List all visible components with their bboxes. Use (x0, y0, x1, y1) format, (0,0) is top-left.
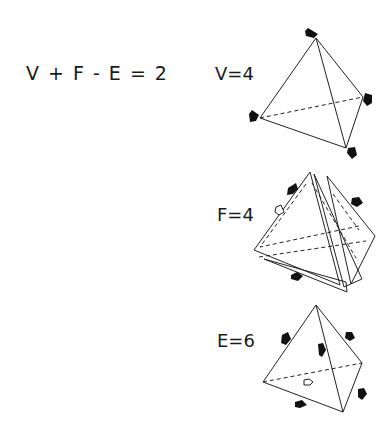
faces-label: F=4 (217, 204, 254, 225)
vertices-panel: V=4 (215, 28, 372, 159)
tetrahedron-edges (263, 305, 362, 412)
vertex-arrow-icon (363, 93, 372, 106)
euler-formula-diagram: V + F - E = 2 V=4 F=4 (0, 0, 391, 432)
faces-panel: F=4 (217, 172, 375, 292)
edge-arrow-icon (295, 400, 307, 408)
exploded-tetrahedron-faces (254, 172, 375, 292)
vertices-label: V=4 (215, 63, 254, 84)
face-arrow-icon (287, 183, 298, 195)
edge-arrow-open-icon (304, 379, 313, 385)
edge-arrow-icon (358, 388, 367, 400)
euler-formula: V + F - E = 2 (26, 62, 168, 84)
edges-label: E=6 (217, 330, 255, 351)
vertex-arrow-icon (249, 110, 259, 122)
edges-panel: E=6 (217, 305, 367, 412)
vertex-arrow-icon (347, 147, 357, 159)
edge-arrow-icon (345, 332, 355, 341)
face-arrow-open-icon (275, 205, 284, 215)
vertex-arrow-icon (305, 28, 318, 38)
edge-arrow-icon (318, 343, 326, 357)
tetrahedron-vertices (260, 38, 363, 148)
face-arrow-icon (351, 197, 363, 207)
